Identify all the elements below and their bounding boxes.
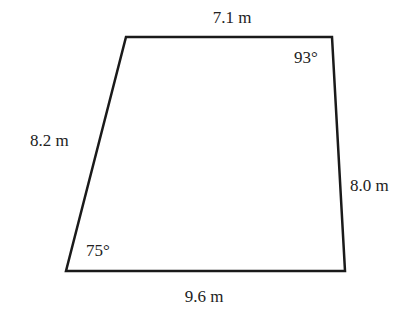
side-label-left: 8.2 m bbox=[30, 131, 69, 150]
angle-label-bottom-left: 75° bbox=[86, 241, 110, 260]
side-label-top: 7.1 m bbox=[213, 8, 252, 27]
side-label-right: 8.0 m bbox=[350, 176, 389, 195]
quadrilateral-shape bbox=[66, 37, 345, 271]
side-label-bottom: 9.6 m bbox=[185, 287, 224, 306]
quadrilateral-diagram: 7.1 m 8.2 m 8.0 m 9.6 m 93° 75° bbox=[0, 0, 419, 314]
angle-label-top-right: 93° bbox=[294, 48, 318, 67]
